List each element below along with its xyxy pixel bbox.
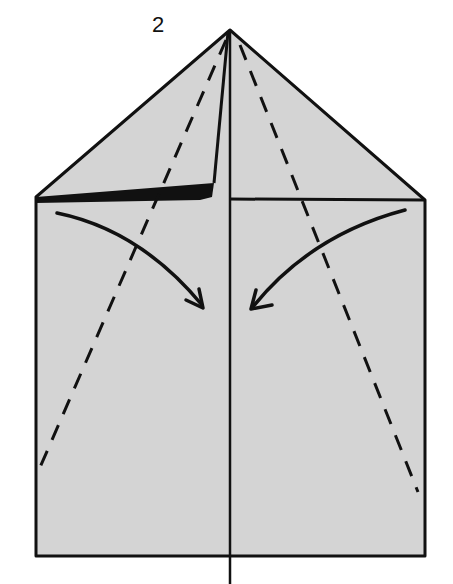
diagram-svg xyxy=(0,0,453,584)
origami-diagram: 2 xyxy=(0,0,453,584)
step-number: 2 xyxy=(152,12,164,38)
triangle-base-right xyxy=(230,199,425,200)
